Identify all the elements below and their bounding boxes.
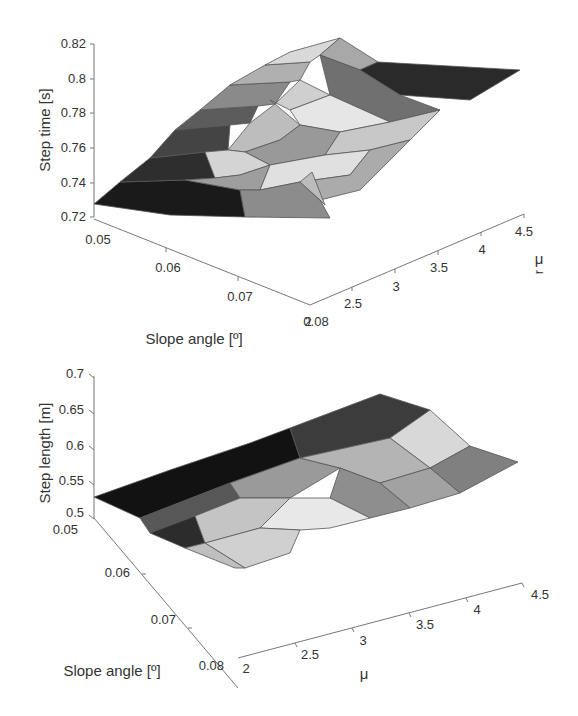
z-tick-label: 0.65	[59, 402, 84, 417]
z-tick-label: 0.5	[66, 505, 84, 520]
y-axis-label-subscript: r	[531, 269, 546, 274]
x-tick-label: 0.05	[53, 522, 78, 537]
x-tick-label: 0.06	[105, 565, 130, 580]
x-tick-label: 0.06	[155, 260, 180, 275]
x-axis-label: Slope angle [º]	[63, 662, 160, 679]
x-tick-label: 0.07	[227, 289, 252, 304]
step-length-surface-plot: 0.7 0.65 0.6 0.55 0.5 Step length [m]	[0, 358, 578, 716]
x-tick-label: 0.07	[151, 612, 176, 627]
y-tick-label: 2	[242, 661, 249, 676]
step-length-plot-svg: 0.7 0.65 0.6 0.55 0.5 Step length [m]	[0, 358, 578, 716]
z-tick-label: 0.8	[68, 71, 86, 86]
step-time-plot-svg: 0.82 0.8 0.78 0.76 0.74 0.72 Step time […	[0, 0, 578, 358]
y-tick-label: 4	[473, 602, 480, 617]
x-tick-label: 0.05	[85, 232, 110, 247]
z-tick-label: 0.72	[61, 209, 86, 224]
y-tick-label: 2.5	[344, 296, 362, 311]
z-tick-label: 0.74	[61, 175, 86, 190]
x-tick-label: 0.08	[199, 658, 224, 673]
z-ticks: 0.82 0.8 0.78 0.76 0.74 0.72	[61, 36, 94, 224]
y-ticks: 2.5 3 3.5 4 4.5	[344, 214, 533, 311]
y-tick-label: 4.5	[531, 587, 549, 602]
y-tick-label: 4	[478, 242, 485, 257]
y-axis-label: μ	[360, 665, 369, 682]
y-axis-line	[310, 214, 524, 305]
z-ticks: 0.7 0.65 0.6 0.55 0.5	[59, 366, 94, 520]
y-tick-label: 2	[304, 314, 311, 329]
x-axis-line	[94, 219, 310, 305]
z-tick-label: 0.55	[59, 473, 84, 488]
y-tick-label: 3	[359, 633, 366, 648]
z-tick-label: 0.6	[66, 438, 84, 453]
z-tick-label: 0.7	[66, 366, 84, 381]
y-ticks: 2 2.5 3 3.5 4 4.5	[242, 583, 549, 676]
z-axis-label: Step length [m]	[36, 403, 53, 504]
z-tick-label: 0.78	[61, 105, 86, 120]
x-axis-label: Slope angle [º]	[145, 330, 242, 347]
y-tick-label: 3.5	[416, 617, 434, 632]
z-tick-label: 0.76	[61, 140, 86, 155]
y-tick-label: 3.5	[430, 260, 448, 275]
step-time-surface	[94, 38, 520, 218]
x-ticks: 0.05 0.06 0.07 0.08 2	[85, 232, 328, 329]
z-axis-label: Step time [s]	[36, 88, 53, 171]
y-tick-label: 2.5	[301, 647, 319, 662]
step-time-surface-plot: 0.82 0.8 0.78 0.76 0.74 0.72 Step time […	[0, 0, 578, 358]
z-tick-label: 0.82	[61, 36, 86, 51]
y-tick-label: 4.5	[515, 224, 533, 239]
y-tick-label: 3	[392, 279, 399, 294]
y-axis-line	[238, 583, 522, 658]
step-length-surface	[94, 394, 518, 568]
y-axis-label: μ	[535, 250, 544, 267]
